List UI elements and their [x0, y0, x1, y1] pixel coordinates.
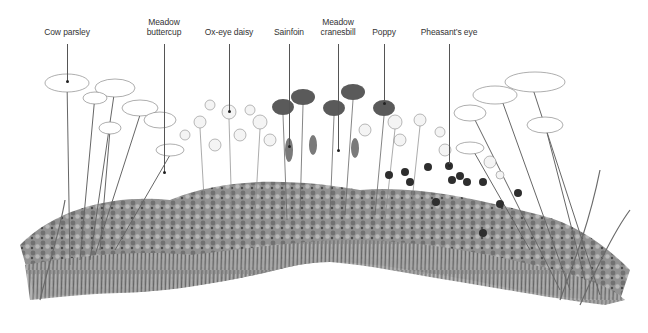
leader-line-pheasants-eye: [449, 44, 450, 165]
label-meadow-buttercup: Meadow buttercup: [147, 17, 182, 37]
pointer-dot-cow-parsley: [66, 80, 69, 83]
poppies: [272, 84, 395, 116]
leader-line-ox-eye-daisy: [229, 44, 230, 111]
label-meadow-cranesbill: Meadow cranesbill: [321, 17, 356, 37]
pointer-dot-meadow-buttercup: [163, 171, 166, 174]
pointer-dot-pheasants-eye: [448, 164, 451, 167]
leader-line-meadow-cranesbill: [338, 44, 339, 150]
pointer-dot-ox-eye-daisy: [228, 110, 231, 113]
meadow-artwork: [0, 0, 648, 333]
leader-line-sainfoin: [289, 44, 290, 146]
pointer-dot-poppy: [383, 102, 386, 105]
label-poppy: Poppy: [372, 27, 396, 37]
leader-line-poppy: [384, 44, 385, 103]
meadow-illustration: Cow parsley Meadow buttercup Ox-eye dais…: [0, 0, 648, 333]
label-cow-parsley: Cow parsley: [44, 27, 90, 37]
leader-line-cow-parsley: [67, 44, 68, 81]
pointer-dot-meadow-cranesbill: [337, 149, 340, 152]
label-ox-eye-daisy: Ox-eye daisy: [205, 27, 253, 37]
sainfoin-spikes: [285, 135, 359, 162]
leader-line-meadow-buttercup: [164, 44, 165, 172]
pointer-dot-sainfoin: [288, 145, 291, 148]
label-pheasants-eye: Pheasant’s eye: [421, 27, 478, 37]
label-sainfoin: Sainfoin: [274, 27, 304, 37]
